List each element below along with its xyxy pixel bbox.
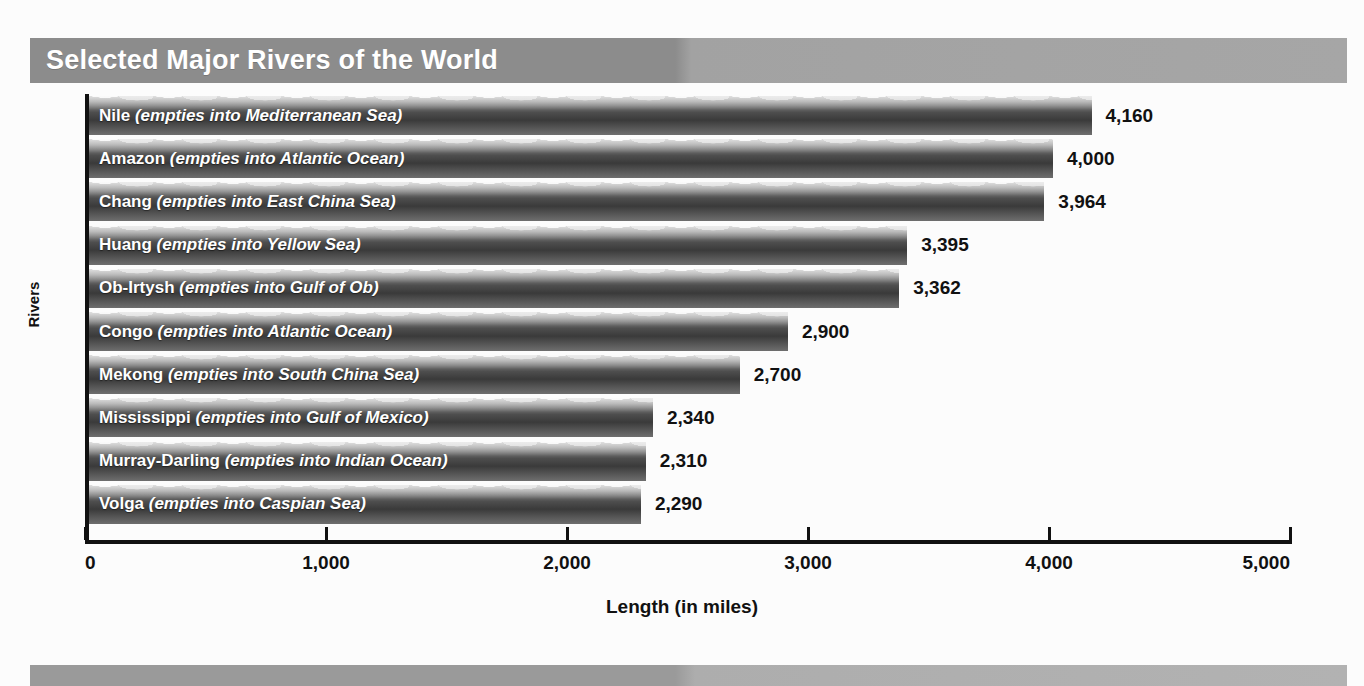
bar-row: Mekong (empties into South China Sea)2,7…: [89, 355, 1294, 394]
bar-wave-texture: [89, 139, 1053, 148]
chart-title-banner: Selected Major Rivers of the World: [30, 38, 1347, 83]
bar-wave-texture: [89, 442, 646, 451]
bar-row: Mississippi (empties into Gulf of Mexico…: [89, 398, 1294, 437]
bar-row: Amazon (empties into Atlantic Ocean)4,00…: [89, 139, 1294, 178]
x-axis-tick-label: 2,000: [543, 552, 591, 574]
bar-wave-texture: [89, 226, 907, 235]
x-axis-tick-label: 0: [85, 552, 96, 574]
river-destination: (empties into Yellow Sea): [157, 235, 361, 254]
river-name: Ob-Irtysh: [99, 278, 179, 297]
bar-value-label: 4,000: [1067, 147, 1115, 169]
bar-label: Amazon (empties into Atlantic Ocean): [99, 148, 404, 168]
river-name: Nile: [99, 105, 135, 124]
x-axis-tick-label: 3,000: [784, 552, 832, 574]
bar-value-label: 2,900: [802, 320, 850, 342]
bar-label: Huang (empties into Yellow Sea): [99, 235, 361, 255]
chart-page: Selected Major Rivers of the World River…: [0, 0, 1364, 686]
x-axis-tick-label: 5,000: [1242, 552, 1290, 574]
bar-wave-texture: [89, 96, 1092, 105]
y-axis-title: Rivers: [25, 298, 42, 328]
bar-label: Volga (empties into Caspian Sea): [99, 494, 366, 514]
bar-label: Nile (empties into Mediterranean Sea): [99, 105, 402, 125]
x-axis-tick: [807, 527, 810, 540]
bar-value-label: 3,395: [921, 234, 969, 256]
river-destination: (empties into Caspian Sea): [149, 494, 366, 513]
bar-label: Murray-Darling (empties into Indian Ocea…: [99, 451, 448, 471]
bar-label: Mekong (empties into South China Sea): [99, 364, 419, 384]
bar-wave-texture: [89, 182, 1044, 191]
chart-plot-area: Rivers 01,0002,0003,0004,0005,000 Nile (…: [0, 86, 1364, 646]
bar-label: Mississippi (empties into Gulf of Mexico…: [99, 407, 429, 427]
x-axis-tick: [1048, 527, 1051, 540]
x-axis-tick: [1289, 527, 1292, 540]
bar-value-label: 2,340: [667, 406, 715, 428]
bar-wave-texture: [89, 485, 641, 494]
river-name: Mississippi: [99, 407, 195, 426]
river-name: Volga: [99, 494, 149, 513]
river-name: Murray-Darling: [99, 451, 225, 470]
bar-row: Nile (empties into Mediterranean Sea)4,1…: [89, 96, 1294, 135]
bar-wave-texture: [89, 269, 899, 278]
river-destination: (empties into South China Sea): [168, 364, 419, 383]
x-axis-tick-label: 4,000: [1025, 552, 1073, 574]
river-destination: (empties into Indian Ocean): [225, 451, 448, 470]
bar-value-label: 4,160: [1106, 104, 1154, 126]
x-axis-tick: [566, 527, 569, 540]
bar-value-label: 3,362: [913, 277, 961, 299]
bar-row: Congo (empties into Atlantic Ocean)2,900: [89, 312, 1294, 351]
bar-wave-texture: [89, 398, 653, 407]
bar-row: Ob-Irtysh (empties into Gulf of Ob)3,362: [89, 269, 1294, 308]
bar-row: Chang (empties into East China Sea)3,964: [89, 182, 1294, 221]
bottom-strip: [30, 665, 1347, 686]
bar-row: Volga (empties into Caspian Sea)2,290: [89, 485, 1294, 524]
bar-row: Huang (empties into Yellow Sea)3,395: [89, 226, 1294, 265]
x-axis-line: [85, 540, 1292, 544]
river-name: Huang: [99, 235, 157, 254]
river-destination: (empties into Atlantic Ocean): [158, 321, 393, 340]
bar-row: Murray-Darling (empties into Indian Ocea…: [89, 442, 1294, 481]
x-axis-title: Length (in miles): [0, 596, 1364, 618]
river-destination: (empties into Mediterranean Sea): [135, 105, 402, 124]
bar-label: Chang (empties into East China Sea): [99, 191, 396, 211]
bar-value-label: 2,700: [754, 363, 802, 385]
river-destination: (empties into Gulf of Ob): [179, 278, 378, 297]
chart-title: Selected Major Rivers of the World: [46, 44, 498, 75]
river-destination: (empties into Gulf of Mexico): [195, 407, 428, 426]
bar-label: Ob-Irtysh (empties into Gulf of Ob): [99, 278, 379, 298]
bar-value-label: 2,290: [655, 493, 703, 515]
bar-wave-texture: [89, 312, 788, 321]
x-axis-tick-label: 1,000: [302, 552, 350, 574]
bar-value-label: 2,310: [660, 450, 708, 472]
bar-value-label: 3,964: [1058, 190, 1106, 212]
bar-wave-texture: [89, 355, 740, 364]
river-destination: (empties into Atlantic Ocean): [170, 148, 405, 167]
river-name: Amazon: [99, 148, 170, 167]
river-name: Mekong: [99, 364, 168, 383]
river-name: Congo: [99, 321, 158, 340]
bar-label: Congo (empties into Atlantic Ocean): [99, 321, 392, 341]
x-axis-tick: [84, 527, 87, 540]
x-axis-tick: [325, 527, 328, 540]
river-destination: (empties into East China Sea): [157, 191, 396, 210]
river-name: Chang: [99, 191, 157, 210]
